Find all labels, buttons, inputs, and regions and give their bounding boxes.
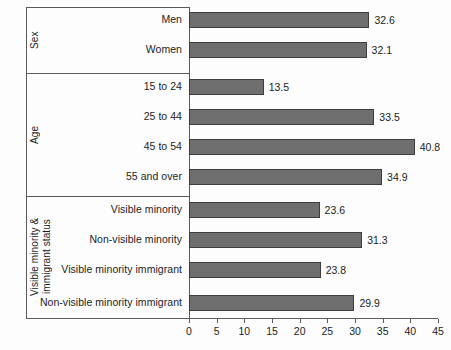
category-label: Visible minority immigrant (30, 263, 186, 275)
x-axis-tick-label: 15 (260, 325, 284, 337)
bar (189, 202, 320, 218)
plot-area: 32.632.113.533.540.834.923.631.323.829.9 (189, 7, 438, 318)
category-label: 55 and over (30, 170, 186, 182)
bar-value-label: 23.6 (325, 202, 345, 218)
x-axis-tick-label: 30 (343, 325, 367, 337)
bar (189, 139, 415, 155)
category-label: Men (30, 13, 186, 25)
category-label: Non-visible minority immigrant (30, 296, 186, 308)
x-axis-tick-label: 20 (288, 325, 312, 337)
bar (189, 232, 362, 248)
x-axis-tick-label: 40 (398, 325, 422, 337)
bar-value-label: 31.3 (367, 232, 387, 248)
x-axis-tick (217, 319, 218, 323)
plot-frame-top-line (26, 7, 190, 8)
bar-value-label: 32.1 (372, 42, 392, 58)
category-label: 15 to 24 (30, 80, 186, 92)
x-axis-tick (189, 319, 190, 323)
category-label: Non-visible minority (30, 233, 186, 245)
x-axis-tick (244, 319, 245, 323)
category-label: Visible minority (30, 203, 186, 215)
bar-value-label: 34.9 (387, 169, 407, 185)
x-axis-tick-label: 0 (177, 325, 201, 337)
category-label: Women (30, 43, 186, 55)
bar (189, 262, 321, 278)
x-axis-tick (272, 319, 273, 323)
bar-value-label: 40.8 (420, 139, 440, 155)
bar-chart: Sex Age Visible minority & immigrant sta… (0, 0, 451, 350)
x-axis-tick-label: 45 (426, 325, 450, 337)
x-axis-tick-label: 5 (205, 325, 229, 337)
bar-value-label: 32.6 (374, 12, 394, 28)
bar (189, 42, 367, 58)
x-axis-tick (327, 319, 328, 323)
x-axis-tick-label: 35 (371, 325, 395, 337)
x-axis-tick (355, 319, 356, 323)
bar (189, 79, 264, 95)
bar-value-label: 23.8 (326, 262, 346, 278)
x-axis-tick-label: 10 (232, 325, 256, 337)
value-axis-line (26, 318, 438, 319)
group-separator-sex-age (26, 73, 190, 74)
bar (189, 169, 382, 185)
x-axis-tick (300, 319, 301, 323)
bar (189, 12, 369, 28)
bar-value-label: 13.5 (269, 79, 289, 95)
x-axis-tick (438, 319, 439, 323)
x-axis-tick (383, 319, 384, 323)
bar (189, 295, 354, 311)
bar-value-label: 29.9 (359, 295, 379, 311)
x-axis-tick (410, 319, 411, 323)
x-axis-tick-label: 25 (315, 325, 339, 337)
category-label: 25 to 44 (30, 110, 186, 122)
bar (189, 109, 374, 125)
category-label: 45 to 54 (30, 140, 186, 152)
plot-frame-left-line (26, 7, 27, 319)
bar-value-label: 33.5 (379, 109, 399, 125)
